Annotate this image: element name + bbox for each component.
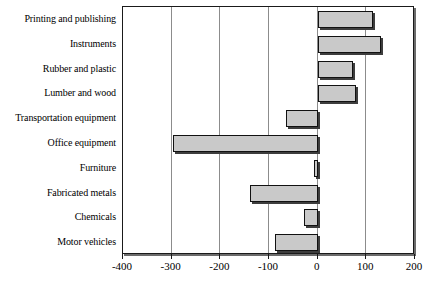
bar (314, 160, 318, 177)
gridline (268, 7, 269, 253)
category-label: Fabricated metals (47, 187, 116, 198)
axis-tick (365, 254, 366, 259)
category-label: Instruments (70, 38, 116, 49)
gridline (219, 7, 220, 253)
axis-tick-label: -200 (209, 260, 229, 273)
axis-tick-label: 200 (406, 260, 423, 273)
axis-tick-label: 100 (357, 260, 374, 273)
bar-chart: Printing and publishingInstrumentsRubber… (0, 0, 428, 284)
category-label: Chemicals (75, 211, 116, 222)
axis-tick-label: -300 (161, 260, 181, 273)
axis-tick (171, 254, 172, 259)
category-label: Office equipment (48, 137, 116, 148)
category-axis: Printing and publishingInstrumentsRubber… (0, 0, 119, 254)
bar (318, 36, 382, 53)
value-axis: -400-300-200-1000100200 (122, 254, 414, 284)
bar (250, 185, 318, 202)
axis-tick (219, 254, 220, 259)
category-label: Furniture (80, 162, 116, 173)
category-label: Lumber and wood (44, 87, 116, 98)
axis-tick (122, 254, 123, 259)
plot-area (122, 6, 414, 254)
axis-tick-label: -100 (258, 260, 278, 273)
category-label: Rubber and plastic (43, 63, 116, 74)
axis-tick-label: 0 (314, 260, 320, 273)
gridline (171, 7, 172, 253)
axis-tick (414, 254, 415, 259)
bar (318, 61, 353, 78)
bar (286, 110, 318, 127)
axis-tick (317, 254, 318, 259)
bar (318, 85, 356, 102)
category-label: Transportation equipment (15, 112, 116, 123)
category-label: Printing and publishing (24, 13, 116, 24)
bar (304, 209, 318, 226)
bar (173, 135, 318, 152)
bar (275, 234, 318, 251)
axis-tick (268, 254, 269, 259)
category-label: Motor vehicles (57, 236, 116, 247)
bar (318, 11, 373, 28)
axis-tick-label: -400 (112, 260, 132, 273)
